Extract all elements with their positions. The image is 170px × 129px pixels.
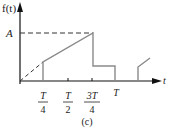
figure-caption: (c) bbox=[81, 116, 92, 128]
x-axis bbox=[20, 78, 162, 84]
y-axis bbox=[17, 2, 23, 84]
ramp-dashed-segment bbox=[20, 62, 43, 81]
x-axis-arrow-icon bbox=[152, 78, 162, 84]
svg-text:2: 2 bbox=[66, 104, 71, 115]
tick-label-quarter: T 4 bbox=[38, 90, 48, 115]
svg-text:4: 4 bbox=[41, 104, 46, 115]
y-axis-arrow-icon bbox=[17, 2, 23, 12]
signal-next-period bbox=[138, 58, 150, 81]
svg-text:T: T bbox=[40, 90, 47, 101]
tick-label-three-quarter: 3T 4 bbox=[84, 90, 100, 115]
svg-text:3T: 3T bbox=[86, 90, 99, 101]
svg-text:4: 4 bbox=[90, 104, 95, 115]
y-axis-label: f(t) bbox=[2, 2, 16, 15]
x-axis-label: t bbox=[163, 75, 166, 86]
svg-text:T: T bbox=[65, 90, 72, 101]
tick-label-half: T 2 bbox=[63, 90, 73, 115]
amplitude-label: A bbox=[5, 27, 13, 39]
signal-waveform bbox=[43, 33, 115, 81]
waveform-diagram: f(t) t A T 4 T 2 3T 4 T (c) bbox=[0, 0, 170, 129]
tick-label-period: T bbox=[113, 87, 120, 98]
